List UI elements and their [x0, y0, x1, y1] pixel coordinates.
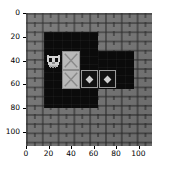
y-tick-mark	[23, 61, 26, 62]
plot-axes	[26, 13, 152, 146]
figure-canvas: 020406080100020406080100	[0, 0, 174, 178]
y-tick-mark	[23, 13, 26, 14]
x-tick-label: 40	[61, 150, 81, 158]
x-tick-label: 0	[16, 150, 36, 158]
target-right	[99, 70, 116, 88]
y-tick-label: 20	[0, 33, 20, 41]
box-upper	[62, 51, 80, 70]
diamond-icon	[85, 75, 94, 84]
y-tick-label: 60	[0, 80, 20, 88]
box-lower	[62, 70, 80, 89]
diamond-icon	[103, 75, 112, 84]
y-tick-mark	[23, 37, 26, 38]
y-tick-label: 0	[0, 9, 20, 17]
y-tick-label: 100	[0, 128, 20, 136]
x-tick-label: 80	[106, 150, 126, 158]
y-tick-mark	[23, 132, 26, 133]
x-tick-label: 20	[39, 150, 59, 158]
y-tick-label: 80	[0, 104, 20, 112]
y-tick-mark	[23, 108, 26, 109]
x-tick-label: 100	[129, 150, 149, 158]
y-tick-mark	[23, 84, 26, 85]
target-left	[81, 70, 98, 88]
y-tick-label: 40	[0, 57, 20, 65]
x-tick-label: 60	[84, 150, 104, 158]
owl-player-sprite	[45, 52, 62, 69]
